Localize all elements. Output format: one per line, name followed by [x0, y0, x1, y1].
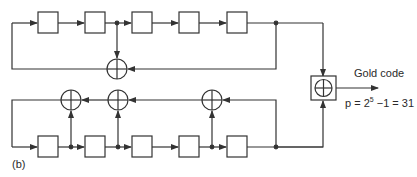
- lower-xor-3-icon: [202, 90, 222, 110]
- lower-xor-1-icon: [61, 90, 81, 110]
- lower-stage-2: [85, 136, 105, 157]
- combiner-xor-icon: [315, 80, 332, 97]
- lower-stage-5: [227, 136, 247, 157]
- combiner: [276, 23, 378, 147]
- panel-label: (b): [12, 158, 25, 170]
- upper-xor-icon: [107, 59, 127, 79]
- period-prefix: p = 2: [345, 97, 370, 109]
- period-formula: p = 25 −1 = 31: [345, 96, 414, 109]
- upper-stage-3: [132, 12, 152, 33]
- upper-stage-4: [179, 12, 199, 33]
- period-suffix: −1 = 31: [374, 97, 414, 109]
- lower-stage-1: [38, 136, 58, 157]
- upper-lfsr: [12, 12, 323, 79]
- upper-stage-1: [38, 12, 58, 33]
- lower-xor-2-icon: [108, 90, 128, 110]
- lower-stage-4: [179, 136, 199, 157]
- output-label: Gold code: [354, 67, 404, 79]
- lower-stage-3: [132, 136, 152, 157]
- gold-code-diagram: [0, 0, 417, 177]
- upper-stage-5: [227, 12, 247, 33]
- upper-stage-2: [85, 12, 105, 33]
